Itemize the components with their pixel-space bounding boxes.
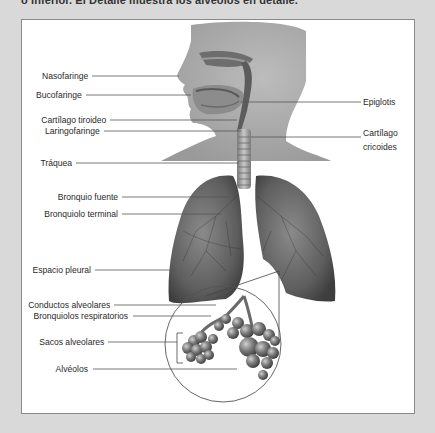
label-sacos-alveolares: Sacos alveolares [39, 336, 104, 347]
label-epiglotis: Epiglotis [363, 96, 395, 107]
left-lung [169, 176, 244, 304]
label-cartilago-tiroideo: Cartílago tiroideo [41, 114, 106, 125]
label-conductos-alveolares: Conductos alveolares [28, 299, 110, 310]
trachea [237, 129, 251, 189]
label-nasofaringe: Nasofaringe [42, 70, 88, 81]
label-traquea: Tráquea [40, 157, 72, 168]
label-alveolos: Alvéolos [56, 363, 88, 374]
label-bronquio-fuente: Bronquio fuente [58, 191, 118, 202]
figure-caption: o inferior. El Detalle muestra los alvéo… [21, 0, 298, 6]
diagram-panel: Nasofaringe Bucofaringe Cartílago tiroid… [21, 19, 415, 414]
label-bucofaringe: Bucofaringe [36, 89, 82, 100]
right-lung [255, 176, 335, 302]
label-laringofaringe: Laringofaringe [45, 125, 100, 136]
label-cartilago-cricoides-line1: Cartílago [363, 127, 398, 138]
label-bronquiolos-respiratorios: Bronquiolos respiratorios [33, 310, 128, 321]
label-bronquiolo-terminal: Bronquiolo terminal [44, 208, 118, 219]
label-espacio-pleural: Espacio pleural [33, 264, 91, 275]
alveolar-sacs [182, 314, 280, 380]
label-cartilago-cricoides-line2: cricoides [363, 141, 397, 152]
